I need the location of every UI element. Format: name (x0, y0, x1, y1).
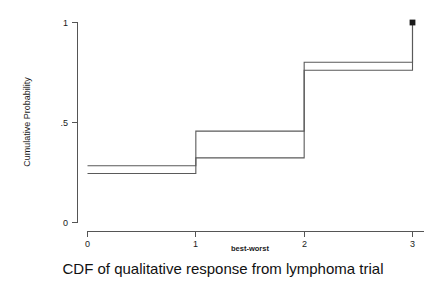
x-tick-label-1: 1 (193, 239, 198, 249)
cdf-plot: 1 .5 0 0 1 2 3 Cumulative Probability be… (0, 0, 446, 284)
y-tick-label-0: 0 (63, 218, 68, 228)
y-tick-label-1: 1 (63, 18, 68, 28)
x-tick-label-0: 0 (85, 239, 90, 249)
plot-background (0, 0, 446, 284)
y-tick-label-05: .5 (60, 118, 68, 128)
x-tick-label-2: 2 (302, 239, 307, 249)
y-axis-title: Cumulative Probability (22, 77, 32, 167)
chart-caption: CDF of qualitative response from lymphom… (63, 260, 384, 277)
x-tick-label-3: 3 (410, 239, 415, 249)
end-point-marker (410, 20, 415, 25)
x-axis-title: best-worst (231, 244, 269, 253)
chart-figure: 1 .5 0 0 1 2 3 Cumulative Probability be… (0, 0, 446, 284)
